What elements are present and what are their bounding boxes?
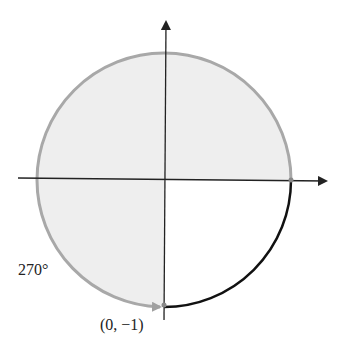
highlight-arc bbox=[164, 180, 291, 307]
point-end bbox=[162, 303, 167, 308]
point-label: (0, −1) bbox=[100, 316, 144, 334]
point-start bbox=[289, 178, 294, 183]
angle-label: 270° bbox=[18, 261, 48, 278]
unit-circle-diagram: 270° (0, −1) bbox=[0, 0, 339, 350]
